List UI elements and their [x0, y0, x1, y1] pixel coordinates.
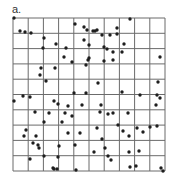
data-point — [87, 56, 90, 59]
data-point — [135, 126, 138, 129]
data-point — [106, 112, 109, 115]
data-point — [64, 46, 67, 49]
data-point — [73, 22, 76, 25]
data-point — [116, 123, 119, 126]
data-point — [84, 91, 87, 94]
data-point — [126, 111, 129, 114]
data-point — [115, 32, 118, 35]
data-point — [53, 66, 56, 69]
scatter-plot — [0, 0, 173, 178]
data-point — [82, 25, 85, 28]
data-point — [62, 55, 65, 58]
data-point — [105, 47, 108, 50]
data-point — [156, 80, 159, 83]
data-point — [102, 59, 105, 62]
data-point — [111, 58, 114, 61]
data-point — [74, 168, 77, 171]
data-point — [42, 120, 45, 123]
data-point — [158, 96, 161, 99]
data-point — [85, 28, 88, 31]
data-point — [82, 38, 85, 41]
data-point — [18, 29, 21, 32]
data-point — [103, 146, 106, 149]
data-point — [80, 103, 83, 106]
data-point — [37, 146, 40, 149]
data-point — [111, 50, 114, 53]
data-point — [108, 33, 111, 36]
data-point — [128, 17, 131, 20]
data-point — [12, 99, 15, 102]
data-point — [95, 28, 98, 31]
data-point — [154, 103, 157, 106]
data-point — [155, 93, 158, 96]
data-point — [22, 134, 25, 137]
data-point — [73, 143, 76, 146]
data-point — [106, 154, 109, 157]
data-point — [95, 126, 98, 129]
data-point — [70, 114, 73, 117]
data-point — [66, 131, 69, 134]
data-point — [38, 73, 41, 76]
data-point — [28, 157, 31, 160]
data-point — [87, 43, 90, 46]
data-point — [42, 154, 45, 157]
data-point — [56, 102, 59, 105]
data-point — [34, 134, 37, 137]
data-point — [159, 166, 162, 169]
data-point — [111, 111, 114, 114]
data-point — [60, 120, 63, 123]
data-point — [47, 111, 50, 114]
data-point — [109, 158, 112, 161]
data-point — [161, 169, 164, 172]
data-point — [36, 143, 39, 146]
data-point — [70, 60, 73, 63]
data-point — [78, 131, 81, 134]
data-point — [33, 110, 36, 113]
data-point — [127, 134, 130, 137]
data-point — [72, 91, 75, 94]
data-point — [56, 155, 59, 158]
data-point — [29, 31, 32, 34]
data-point — [44, 79, 47, 82]
data-point — [100, 33, 103, 36]
data-point — [138, 93, 141, 96]
data-point — [92, 150, 95, 153]
data-point — [54, 42, 57, 45]
data-point — [63, 111, 66, 114]
data-point — [28, 95, 31, 98]
data-point — [31, 141, 34, 144]
data-point — [158, 55, 161, 58]
data-point — [127, 150, 130, 153]
data-point — [122, 42, 125, 45]
data-point — [115, 26, 118, 29]
data-point — [57, 144, 60, 147]
data-point — [21, 94, 24, 97]
data-point — [66, 104, 69, 107]
data-point — [98, 110, 101, 113]
data-point — [121, 129, 124, 132]
data-point — [52, 99, 55, 102]
data-point — [134, 164, 137, 167]
data-point — [84, 63, 87, 66]
data-point — [120, 50, 123, 53]
data-point — [120, 90, 123, 93]
data-point — [128, 165, 131, 168]
data-point — [148, 125, 151, 128]
grid-lines — [13, 18, 165, 171]
data-point — [55, 167, 58, 170]
data-point — [42, 36, 45, 39]
data-point — [41, 46, 44, 49]
data-point — [52, 167, 55, 170]
data-point — [137, 149, 140, 152]
data-point — [39, 66, 42, 69]
data-point — [155, 124, 158, 127]
data-point — [99, 103, 102, 106]
data-point — [102, 45, 105, 48]
data-point — [24, 128, 27, 131]
data-point — [96, 81, 99, 84]
data-point — [100, 137, 103, 140]
data-point — [12, 16, 15, 19]
data-point — [23, 30, 26, 33]
data-point — [141, 130, 144, 133]
